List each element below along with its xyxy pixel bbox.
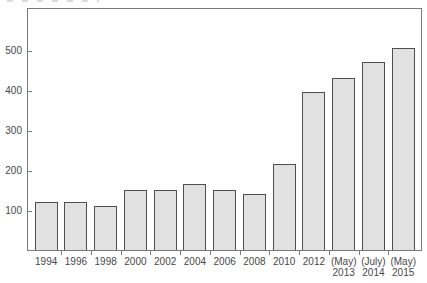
x-axis-tick [269, 251, 270, 255]
cropped-text-fragment [7, 0, 99, 2]
y-axis-tick [28, 131, 32, 132]
bar-2006 [213, 190, 236, 250]
y-axis-tick [28, 51, 32, 52]
y-axis-tick-label: 200 [0, 164, 22, 177]
x-axis-tick [329, 251, 330, 255]
bar-1996 [64, 202, 87, 250]
bar-1994 [35, 202, 58, 250]
bar-(July) 2014 [362, 62, 385, 250]
x-axis-label-line: (May) [381, 256, 425, 267]
bar-chart: 1002003004005001994199619982000200220042… [0, 0, 427, 283]
y-axis-tick [28, 211, 32, 212]
bar-(May) 2013 [332, 78, 355, 250]
bar-2000 [124, 190, 147, 250]
x-axis-tick [240, 251, 241, 255]
x-axis-tick [388, 251, 389, 255]
x-axis-tick [359, 251, 360, 255]
x-axis-tick [299, 251, 300, 255]
x-axis-tick [91, 251, 92, 255]
bar-2012 [302, 92, 325, 250]
y-axis-tick-label: 400 [0, 84, 22, 97]
bar-2010 [273, 164, 296, 250]
y-axis-tick-label: 500 [0, 44, 22, 57]
x-axis-tick-label: (May)2015 [381, 256, 425, 278]
x-axis-tick [210, 251, 211, 255]
bar-2008 [243, 194, 266, 250]
bar-2004 [183, 184, 206, 250]
plot-area [27, 8, 422, 251]
bar-1998 [94, 206, 117, 250]
y-axis-tick [28, 171, 32, 172]
y-axis-tick [28, 91, 32, 92]
x-axis-tick [180, 251, 181, 255]
bar-2002 [154, 190, 177, 250]
x-axis-tick [61, 251, 62, 255]
x-axis-tick [121, 251, 122, 255]
y-axis-tick-label: 300 [0, 124, 22, 137]
x-axis-label-line: 2015 [381, 267, 425, 278]
bar-(May) 2015 [392, 48, 415, 250]
x-axis-tick [150, 251, 151, 255]
y-axis-tick-label: 100 [0, 204, 22, 217]
